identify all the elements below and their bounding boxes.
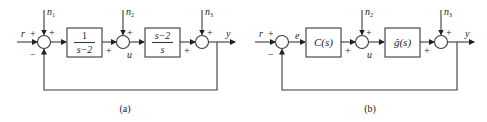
sign-sum3-n: +: [207, 27, 213, 38]
sign-sum3-in: +: [184, 45, 190, 56]
caption-a: (a): [119, 103, 130, 115]
disturbance-label-n2: n2: [126, 6, 134, 18]
signal-label-u: u: [367, 49, 372, 60]
sign-sum1-r: +: [268, 28, 274, 39]
output-label: y: [225, 28, 231, 39]
sign-sum3-n: +: [446, 27, 452, 38]
sign-sum2-in: +: [345, 45, 351, 56]
sign-sum2-n: +: [127, 27, 133, 38]
signal-label-e: e: [295, 30, 300, 41]
sign-sum2-in: +: [106, 45, 112, 56]
controller-label: C(s): [314, 36, 333, 49]
sign-sum1-r: +: [30, 28, 36, 39]
caption-b: (b): [364, 103, 376, 115]
block1-denominator: s−2: [77, 44, 93, 55]
input-label: r: [259, 28, 263, 39]
plant-label: ĝ(s): [394, 36, 411, 49]
sign-sum1-n: +: [49, 27, 55, 38]
block2-denominator: s: [161, 44, 165, 55]
sign-sum1-fb: −: [268, 49, 274, 60]
disturbance-label-n1: n1: [47, 6, 55, 18]
diagram-b: r + − e C(s) + n2 + u ĝ(s) + n3 +: [255, 6, 474, 115]
block2-numerator: s−2: [155, 30, 171, 41]
disturbance-label-n2: n2: [365, 6, 373, 18]
sign-sum2-n: +: [366, 27, 372, 38]
sign-sum3-in: +: [424, 45, 430, 56]
diagram-a: r + n1 + − 1 s−2 + n2 + u s−2 s +: [17, 6, 235, 115]
block-diagrams: r + n1 + − 1 s−2 + n2 + u s−2 s +: [0, 0, 487, 122]
input-label: r: [21, 28, 25, 39]
output-label: y: [464, 28, 470, 39]
sign-sum1-fb: −: [30, 49, 36, 60]
disturbance-label-n3: n3: [205, 6, 213, 18]
signal-label-u: u: [127, 49, 132, 60]
block1-numerator: 1: [82, 30, 87, 41]
disturbance-label-n3: n3: [444, 6, 452, 18]
summing-junction-1: [276, 36, 289, 49]
